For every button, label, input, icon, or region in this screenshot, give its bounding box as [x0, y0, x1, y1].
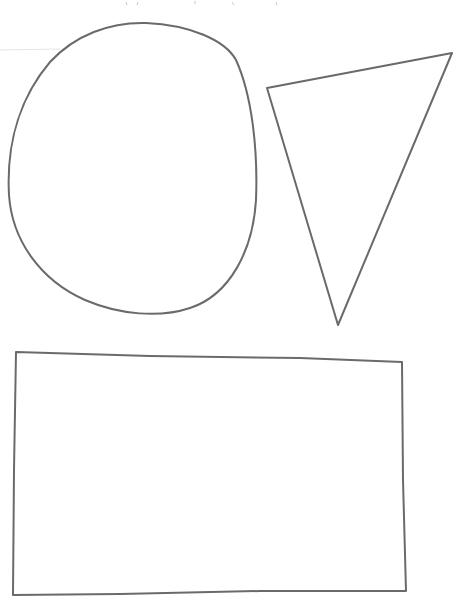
faint-margin-line: [0, 49, 60, 50]
top-cropped-text-marks: [126, 1, 277, 5]
drawing-canvas: [0, 0, 463, 602]
triangle-shape: [267, 53, 452, 325]
rectangle-shape: [13, 352, 406, 595]
oval-shape: [9, 23, 257, 314]
